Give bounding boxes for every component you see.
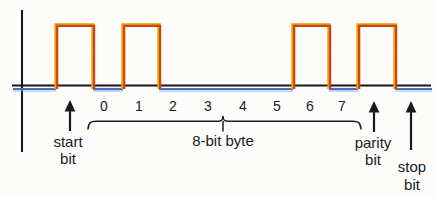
bit-digit-3: 3 [204,99,212,113]
pulse-bit-7 [359,26,396,89]
bit-digit-4: 4 [239,99,247,113]
eight-bit-brace [88,117,361,131]
stop-bit-label-line2: bit [404,177,420,192]
stop-bit-label-line1: stop [398,159,426,174]
bit-digit-1: 1 [135,99,143,113]
bit-digit-0: 0 [100,99,108,113]
pulse-bit-1 [124,26,160,89]
bit-digit-2: 2 [169,99,177,113]
parity-bit-label-line1: parity [355,135,392,150]
signal-pulse-trace [57,26,396,89]
start-bit-arrow [65,100,76,131]
signal-edge-underlay [56,25,395,89]
pulse-bit-6 [294,26,330,89]
parity-bit-arrow [369,101,380,132]
stop-bit-arrow [406,101,417,150]
parity-bit-label-line2: bit [365,152,381,167]
bit-digit-6: 6 [306,99,314,113]
start-bit-label-line1: start [53,134,82,149]
bit-digit-7: 7 [338,99,346,113]
waveform-canvas [0,0,437,198]
serial-waveform-figure: 0 1 2 3 4 5 6 7 8-bit byte start bit par… [0,0,437,198]
start-bit-label-line2: bit [60,151,76,166]
eight-bit-byte-label: 8-bit byte [192,133,254,148]
pulse-start-bit [57,26,94,89]
bit-digit-5: 5 [273,99,281,113]
